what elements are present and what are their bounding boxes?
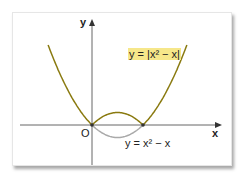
origin-point	[90, 123, 94, 127]
x-axis-label: x	[212, 127, 218, 139]
abs-curve-label: y = |x² − x|	[128, 48, 181, 60]
root-point	[141, 123, 145, 127]
parabola-label: y = x² − x	[125, 137, 170, 149]
y-axis-label: y	[80, 16, 86, 28]
parabola-curve	[92, 125, 143, 138]
plot-area	[0, 0, 243, 178]
origin-label: O	[81, 127, 90, 139]
y-axis-arrow-icon	[89, 19, 95, 26]
